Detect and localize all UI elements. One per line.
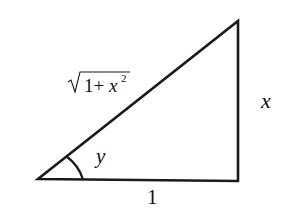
diagram-canvas: 1+ x 2 x 1 y [0, 0, 288, 209]
opposite-label: x [260, 88, 271, 113]
angle-arc [67, 157, 84, 180]
triangle-diagram: 1+ x 2 x 1 y [0, 0, 288, 209]
angle-label: y [94, 144, 106, 168]
hypotenuse-exponent: 2 [121, 72, 127, 84]
adjacent-label: 1 [147, 185, 158, 209]
hypotenuse-text: 1+ x [84, 75, 118, 96]
hypotenuse-label: 1+ x 2 [68, 72, 130, 96]
